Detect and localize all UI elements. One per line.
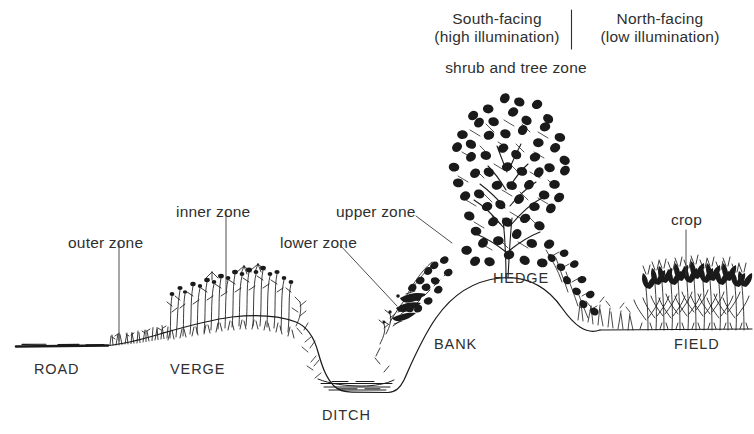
label-lower-zone: lower zone bbox=[280, 234, 357, 252]
header-south-facing: South-facing (high illumination) bbox=[434, 10, 559, 47]
label-bank: BANK bbox=[434, 336, 477, 353]
label-outer-zone: outer zone bbox=[68, 234, 143, 252]
leader-upper-zone bbox=[416, 216, 452, 243]
hedge-canopy bbox=[448, 91, 572, 278]
hedgerow-diagram: South-facing (high illumination) North-f… bbox=[0, 0, 754, 434]
label-inner-zone: inner zone bbox=[176, 203, 250, 221]
road-surface-texture bbox=[22, 344, 104, 345]
header-subtitle: shrub and tree zone bbox=[445, 59, 587, 77]
label-road: ROAD bbox=[34, 361, 80, 378]
label-verge: VERGE bbox=[170, 361, 225, 378]
label-ditch: DITCH bbox=[322, 407, 371, 424]
header-north-facing: North-facing (low illumination) bbox=[600, 10, 719, 47]
label-field: FIELD bbox=[674, 336, 720, 353]
header-south-line2: (high illumination) bbox=[434, 28, 559, 46]
bank-north-facing-vegetation bbox=[546, 249, 633, 330]
field-crop bbox=[634, 255, 752, 330]
label-hedge: HEDGE bbox=[493, 270, 549, 287]
header-north-line1: North-facing bbox=[600, 10, 719, 28]
ditch-left-bank-vegetation bbox=[292, 297, 321, 378]
verge-inner-zone-vegetation bbox=[167, 264, 294, 340]
header-north-line2: (low illumination) bbox=[600, 28, 719, 46]
road-surface bbox=[16, 346, 108, 347]
bank-lower-zone-ferns bbox=[375, 291, 426, 372]
leader-lower-zone bbox=[340, 245, 397, 306]
header-south-line1: South-facing bbox=[434, 10, 559, 28]
label-crop: crop bbox=[671, 211, 702, 229]
label-upper-zone: upper zone bbox=[336, 203, 416, 221]
